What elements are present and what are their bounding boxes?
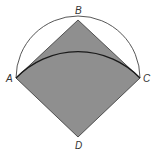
square-abcd — [16, 20, 140, 137]
label-a: A — [5, 73, 13, 84]
label-c: C — [143, 73, 151, 84]
label-d: D — [75, 140, 82, 151]
label-b: B — [75, 5, 82, 16]
geometry-diagram: B A C D — [0, 0, 155, 153]
